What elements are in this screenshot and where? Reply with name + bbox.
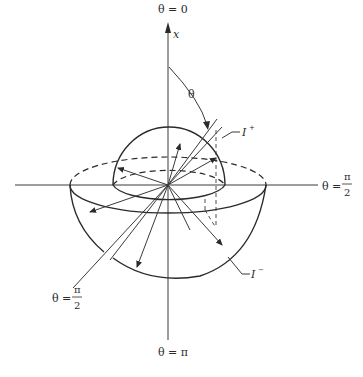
i-minus-leader	[228, 257, 250, 274]
top-label: θ = 0	[158, 3, 188, 16]
theta-arrow-icon	[203, 121, 210, 130]
upper-vectors	[118, 119, 222, 185]
svg-text:θ =: θ =	[322, 180, 341, 193]
i-minus-label: I −	[250, 266, 264, 281]
i-plus-leader	[222, 132, 240, 138]
svg-text:−: −	[258, 266, 264, 274]
vertical-axis	[165, 22, 171, 340]
svg-text:I: I	[241, 126, 247, 139]
svg-text:+: +	[249, 124, 255, 132]
hemisphere-diagram: θ = 0 x θ I + I − θ = π 2 θ = π 2 θ = π	[0, 0, 363, 377]
theta-label: θ	[188, 88, 195, 101]
svg-text:π: π	[74, 284, 81, 295]
svg-text:π: π	[344, 171, 351, 182]
svg-text:2: 2	[344, 187, 350, 198]
bottom-label: θ = π	[158, 346, 188, 359]
projection-lines	[205, 130, 216, 228]
i-plus-label: I +	[241, 124, 255, 139]
right-label: θ = π 2	[322, 171, 352, 198]
svg-text:I: I	[250, 268, 256, 281]
svg-text:2: 2	[74, 300, 80, 311]
svg-text:θ =: θ =	[52, 292, 71, 305]
left-label: θ = π 2	[52, 284, 82, 311]
axis-label: x	[173, 28, 180, 41]
axis-arrow-icon	[165, 22, 171, 33]
upper-hemisphere	[113, 127, 225, 185]
